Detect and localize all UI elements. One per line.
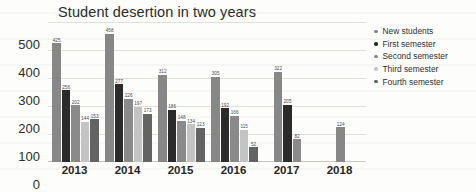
bar-2016-second-semester[interactable]: 166 [230,116,239,162]
bar-value-label: 115 [240,124,247,129]
legend-swatch-icon [374,80,378,84]
x-axis-label-2016: 2016 [221,164,247,176]
bar-2014-first-semester[interactable]: 277 [115,84,124,162]
bar-value-label: 173 [144,108,152,113]
legend-label: Fourth semester [383,77,444,87]
bar-value-label: 202 [72,100,80,105]
bar-2015-second-semester[interactable]: 148 [177,121,186,162]
bar-2015-first-semester[interactable]: 186 [168,110,177,162]
chart-legend: New studentsFirst semesterSecond semeste… [374,25,474,88]
bar-value-label: 148 [178,115,186,120]
legend-item-third-semester[interactable]: Third semester [374,63,474,76]
bar-2016-third-semester[interactable]: 115 [240,130,249,162]
bar-2013-second-semester[interactable]: 202 [71,105,80,162]
bar-value-label: 305 [212,71,220,76]
bar-value-label: 153 [91,114,99,119]
chart-title: Student desertion in two years [58,4,256,20]
x-axis-label-2013: 2013 [62,164,88,176]
x-axis-label-2015: 2015 [168,164,194,176]
y-axis: 0100200300400500 [0,22,44,162]
bar-2017-first-semester[interactable]: 205 [283,105,292,162]
y-axis-tick-0: 0 [33,177,40,192]
bar-value-label: 205 [284,99,292,104]
bar-value-label: 322 [274,66,282,71]
bar-2014-new-students[interactable]: 458 [105,34,114,162]
bar-2013-fourth-semester[interactable]: 153 [90,119,99,162]
bar-2016-fourth-semester[interactable]: 52 [249,147,258,162]
legend-label: New students [383,26,434,36]
bar-value-label: 226 [125,93,133,98]
bar-2015-new-students[interactable]: 312 [158,75,167,162]
y-axis-tick-500: 500 [18,37,40,52]
bar-2013-third-semester[interactable]: 144 [81,122,90,162]
x-axis-label-2017: 2017 [274,164,300,176]
legend-swatch-icon [374,30,378,34]
bar-value-label: 144 [81,116,89,121]
bar-value-label: 82 [295,134,300,139]
bar-2015-fourth-semester[interactable]: 123 [196,128,205,162]
bar-2014-third-semester[interactable]: 197 [134,107,143,162]
bar-2014-fourth-semester[interactable]: 173 [143,114,152,162]
bar-2013-first-semester[interactable]: 256 [62,90,71,162]
bar-chart: Student desertion in two years 010020030… [0,0,476,191]
bar-2014-second-semester[interactable]: 226 [124,99,133,162]
bar-value-label: 52 [251,142,256,147]
bar-group-2013: 425256202144153 [52,22,99,162]
legend-item-fourth-semester[interactable]: Fourth semester [374,75,474,88]
bar-group-2017: 32220582 [274,22,302,162]
y-axis-tick-100: 100 [18,149,40,164]
bar-value-label: 277 [115,79,123,84]
bar-2016-first-semester[interactable]: 192 [221,108,230,162]
bar-2017-second-semester[interactable]: 82 [293,139,302,162]
bar-2013-new-students[interactable]: 425 [52,43,61,162]
bar-value-label: 123 [197,122,205,127]
x-axis-label-2014: 2014 [115,164,141,176]
bar-2017-new-students[interactable]: 322 [274,72,283,162]
bar-value-label: 312 [159,69,167,74]
bar-value-label: 166 [231,110,239,115]
bar-value-label: 192 [221,103,229,108]
x-axis-label-2018: 2018 [327,164,353,176]
legend-label: Second semester [383,51,448,61]
bar-value-label: 458 [106,28,114,33]
bar-group-2015: 312186148134123 [158,22,205,162]
legend-item-second-semester[interactable]: Second semester [374,50,474,63]
y-axis-tick-400: 400 [18,65,40,80]
bar-group-2018: 124 [336,22,345,162]
bar-value-label: 256 [62,85,70,90]
bar-value-label: 425 [53,38,61,43]
legend-label: Third semester [383,64,439,74]
y-axis-tick-300: 300 [18,93,40,108]
legend-swatch-icon [374,67,378,71]
legend-item-first-semester[interactable]: First semester [374,38,474,51]
bar-value-label: 124 [337,122,345,127]
plot-area: 4252562021441534582772261971733121861481… [48,22,366,162]
legend-swatch-icon [374,55,378,59]
legend-item-new-students[interactable]: New students [374,25,474,38]
legend-swatch-icon [374,42,378,46]
legend-label: First semester [383,39,436,49]
bar-2018-new-students[interactable]: 124 [336,127,345,162]
bar-2016-new-students[interactable]: 305 [211,77,220,162]
bar-value-label: 134 [187,119,195,124]
bar-group-2014: 458277226197173 [105,22,152,162]
bar-group-2016: 30519216611552 [211,22,258,162]
y-axis-tick-200: 200 [18,121,40,136]
bar-2015-third-semester[interactable]: 134 [187,124,196,162]
bar-value-label: 186 [168,104,176,109]
bar-value-label: 197 [134,101,142,106]
